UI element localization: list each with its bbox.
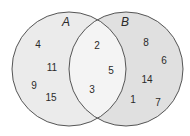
value-only-b: 1	[130, 94, 136, 105]
value-intersection: 3	[89, 84, 95, 95]
value-only-b: 7	[155, 97, 161, 108]
value-intersection: 2	[94, 40, 100, 51]
value-only-b: 14	[141, 74, 153, 85]
set-b-label: B	[121, 15, 129, 29]
set-a-label: A	[61, 15, 70, 29]
value-intersection: 5	[108, 65, 114, 76]
value-only-b: 8	[143, 37, 149, 48]
value-only-a: 4	[35, 39, 41, 50]
value-only-a: 11	[47, 62, 58, 73]
venn-diagram: A B 411915253861417	[0, 0, 190, 136]
value-only-b: 6	[161, 55, 167, 66]
value-only-a: 9	[31, 80, 37, 91]
value-only-a: 15	[45, 92, 57, 103]
